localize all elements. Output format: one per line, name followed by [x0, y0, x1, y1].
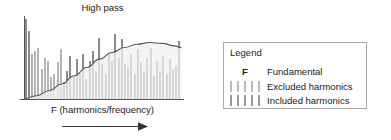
high-pass-chart-panel: High pass F (harmonics/frequency) — [0, 0, 205, 140]
legend-label-excluded: Excluded harmonics — [267, 81, 353, 92]
chart-axes — [24, 16, 189, 106]
frequency-direction-arrow-icon — [0, 120, 205, 136]
plot-area — [24, 16, 181, 99]
legend-row-excluded: Excluded harmonics — [230, 79, 353, 93]
legend-label-fundamental: Fundamental — [267, 66, 322, 77]
legend-box: Legend F Fundamental Excluded harmonics … — [223, 42, 367, 109]
chart-title: High pass — [0, 2, 205, 13]
fundamental-symbol: F — [230, 66, 260, 77]
included-harmonics-swatch-icon — [230, 95, 260, 106]
legend-title: Legend — [230, 47, 262, 58]
legend-row-included: Included harmonics — [230, 93, 349, 107]
legend-row-fundamental: F Fundamental — [230, 64, 322, 78]
x-axis-label: F (harmonics/frequency) — [0, 104, 205, 115]
excluded-harmonics-swatch-icon — [230, 81, 260, 92]
legend-label-included: Included harmonics — [267, 95, 349, 106]
